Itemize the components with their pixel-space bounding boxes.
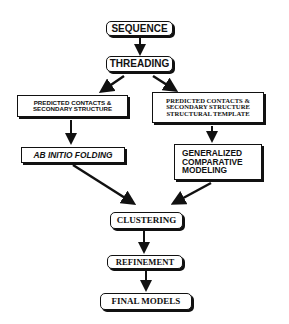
node-label: FINAL MODELS bbox=[112, 297, 181, 306]
flowchart-canvas: SEQUENCE THREADING PREDICTED CONTACTS & … bbox=[0, 0, 289, 324]
arrow-threading-to-right-predicted bbox=[153, 76, 175, 90]
node-final-models: FINAL MODELS bbox=[100, 293, 192, 310]
node-clustering: CLUSTERING bbox=[110, 212, 183, 229]
node-threading: THREADING bbox=[106, 56, 173, 72]
node-label-line: SECONDARY STRUCTURE bbox=[33, 106, 112, 112]
node-refinement: REFINEMENT bbox=[107, 255, 183, 269]
arrow-comparative-to-clustering bbox=[174, 183, 211, 203]
node-right-predicted-contacts: PREDICTED CONTACTS & SECONDARY STRUCTURE… bbox=[152, 92, 264, 123]
arrow-threading-to-left-predicted bbox=[102, 76, 124, 91]
node-label: SEQUENCE bbox=[111, 24, 167, 34]
node-label: REFINEMENT bbox=[116, 258, 174, 267]
node-ab-initio-folding: AB INITIO FOLDING bbox=[21, 147, 125, 163]
arrow-ab-initio-to-clustering bbox=[73, 165, 133, 203]
node-label-line: MODELING bbox=[182, 166, 227, 174]
node-sequence: SEQUENCE bbox=[106, 21, 173, 36]
node-generalized-comparative-modeling: GENERALIZED COMPARATIVE MODELING bbox=[174, 144, 262, 180]
node-left-predicted-contacts: PREDICTED CONTACTS & SECONDARY STRUCTURE bbox=[17, 95, 128, 117]
node-label-line: STRUCTURAL TEMPLATE bbox=[166, 111, 249, 118]
node-label: AB INITIO FOLDING bbox=[33, 151, 112, 159]
node-label: CLUSTERING bbox=[117, 216, 177, 225]
node-label: THREADING bbox=[110, 59, 169, 69]
